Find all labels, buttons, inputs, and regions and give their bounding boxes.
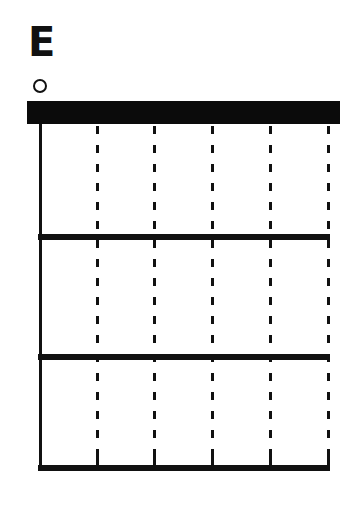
fret-3	[38, 465, 330, 471]
fret-2	[38, 354, 330, 360]
chord-name: E	[28, 18, 55, 66]
open-string-icon	[33, 79, 47, 93]
nut	[27, 101, 340, 124]
string-4	[211, 126, 214, 460]
fret-1	[38, 234, 330, 240]
string-6	[327, 126, 330, 460]
string-2	[96, 126, 99, 460]
string-3	[153, 126, 156, 460]
string-1	[39, 124, 42, 470]
string-5	[269, 126, 272, 460]
